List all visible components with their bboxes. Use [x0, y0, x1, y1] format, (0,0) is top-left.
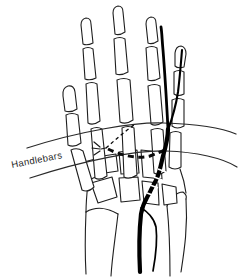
middle-proximal-phalanx — [117, 79, 133, 124]
hand-anatomy-diagram: Handlebars — [0, 0, 244, 278]
ring-distal-phalanx — [146, 17, 158, 44]
middle-middle-phalanx — [114, 38, 128, 75]
middle-metacarpal — [122, 127, 137, 179]
ring-proximal-phalanx — [148, 85, 163, 126]
ring-middle-phalanx — [146, 47, 160, 81]
index-distal-phalanx — [81, 18, 93, 45]
figure-canvas: Handlebars — [0, 0, 244, 278]
little-metacarpal — [169, 132, 181, 170]
index-proximal-phalanx — [86, 83, 100, 125]
pisiform-bone — [162, 184, 177, 205]
lunate-bone — [119, 177, 140, 202]
middle-distal-phalanx — [113, 6, 125, 35]
thumb-proximal-phalanx — [66, 114, 81, 147]
thumb-distal-phalanx — [63, 86, 77, 112]
